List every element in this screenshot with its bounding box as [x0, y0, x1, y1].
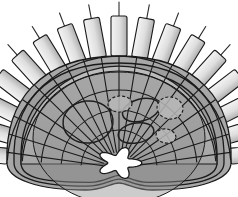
figure-root: Radial cross-section anatomical diagram … [0, 0, 238, 197]
anatomical-cross-section-diagram: Radial cross-section anatomical diagram … [0, 0, 238, 197]
